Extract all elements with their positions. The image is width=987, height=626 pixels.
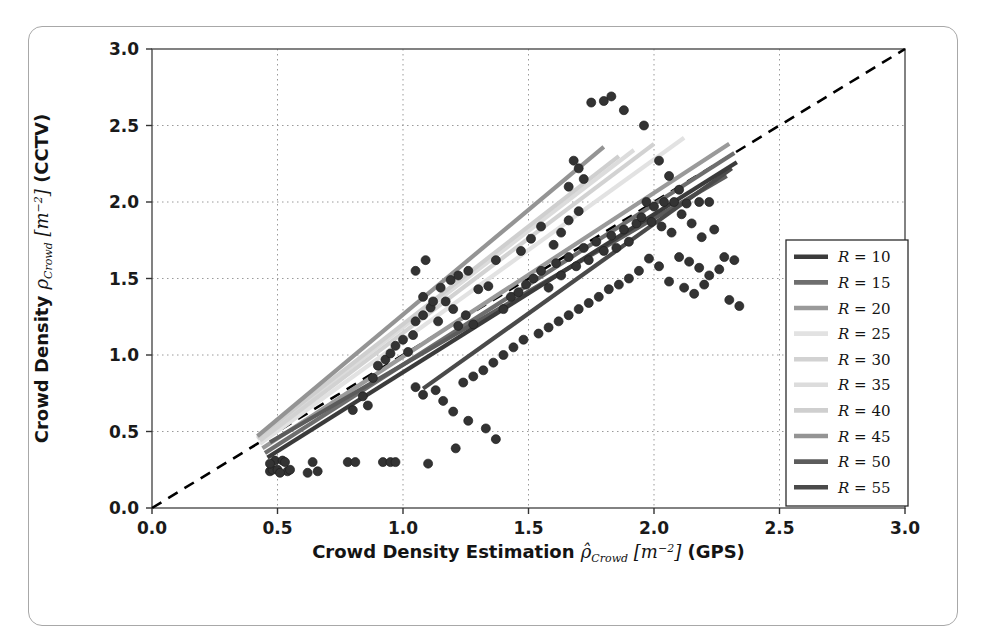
data-point: [549, 240, 558, 249]
data-point: [554, 317, 563, 326]
data-point: [308, 458, 317, 467]
data-point: [276, 468, 285, 477]
x-tick-label: 1.5: [513, 518, 543, 538]
data-point: [509, 343, 518, 352]
data-point: [655, 156, 664, 165]
data-point: [411, 266, 420, 275]
data-point: [527, 234, 536, 243]
data-point: [569, 156, 578, 165]
data-point: [373, 361, 382, 370]
data-point: [484, 282, 493, 291]
data-point: [730, 256, 739, 265]
data-point: [665, 277, 674, 286]
data-point: [521, 280, 530, 289]
data-point: [619, 106, 628, 115]
data-point: [667, 228, 676, 237]
data-point: [449, 407, 458, 416]
data-point: [705, 198, 714, 207]
data-point: [607, 92, 616, 101]
data-point: [695, 263, 704, 272]
data-point: [351, 458, 360, 467]
legend-label: R = 35: [837, 376, 891, 394]
legend-label: R = 10: [837, 248, 891, 266]
data-point: [574, 305, 583, 314]
data-point: [451, 444, 460, 453]
legend[interactable]: R = 10R = 15R = 20R = 25R = 30R = 35R = …: [786, 240, 908, 506]
data-point: [399, 335, 408, 344]
data-point: [479, 366, 488, 375]
regression-line-r-45: [257, 147, 603, 436]
data-point: [604, 285, 613, 294]
regression-line-r-50: [270, 176, 727, 442]
data-point: [286, 465, 295, 474]
data-point: [670, 198, 679, 207]
data-point: [474, 285, 483, 294]
data-point: [682, 199, 691, 208]
data-point: [564, 311, 573, 320]
data-point: [424, 459, 433, 468]
data-point: [725, 295, 734, 304]
x-tick-label: 1.0: [388, 518, 418, 538]
y-tick-label: 1.5: [109, 269, 139, 289]
data-point: [579, 175, 588, 184]
data-point: [557, 228, 566, 237]
data-point: [634, 266, 643, 275]
data-point: [431, 386, 440, 395]
data-point: [592, 237, 601, 246]
y-axis-title: Crowd Density ρCrowd [m−2] (CCTV): [31, 114, 55, 443]
data-point: [386, 349, 395, 358]
x-tick-label: 0.0: [137, 518, 167, 538]
data-point: [690, 289, 699, 298]
data-point: [607, 231, 616, 240]
data-point: [303, 468, 312, 477]
scatter-points: [265, 92, 743, 477]
x-tick-label: 0.5: [262, 518, 292, 538]
data-point: [655, 262, 664, 271]
data-point: [647, 217, 656, 226]
data-point: [411, 317, 420, 326]
data-point: [650, 202, 659, 211]
data-point: [537, 222, 546, 231]
data-point: [391, 341, 400, 350]
data-point: [695, 198, 704, 207]
data-point: [459, 378, 468, 387]
data-point: [619, 225, 628, 234]
data-point: [499, 305, 508, 314]
y-tick-label: 3.0: [109, 39, 139, 59]
legend-label: R = 50: [837, 453, 891, 471]
data-point: [574, 207, 583, 216]
x-axis-title: Crowd Density Estimation ρ̂Crowd [m−2] (…: [312, 541, 745, 565]
data-point: [639, 121, 648, 130]
data-point: [587, 98, 596, 107]
data-point: [660, 198, 669, 207]
y-tick-label: 0.0: [109, 498, 139, 518]
data-point: [454, 271, 463, 280]
data-point: [491, 435, 500, 444]
data-point: [584, 298, 593, 307]
data-point: [491, 256, 500, 265]
regression-line-r-25: [260, 138, 684, 444]
legend-label: R = 45: [837, 428, 891, 446]
data-point: [599, 246, 608, 255]
data-point: [697, 233, 706, 242]
legend-label: R = 40: [837, 402, 891, 420]
legend-label: R = 25: [837, 325, 891, 343]
data-point: [419, 292, 428, 301]
data-point: [675, 253, 684, 262]
x-tick-label: 2.5: [764, 518, 794, 538]
legend-label: R = 30: [837, 351, 891, 369]
data-point: [564, 253, 573, 262]
data-point: [544, 323, 553, 332]
data-point: [464, 266, 473, 275]
x-tick-label: 3.0: [890, 518, 920, 538]
y-tick-label: 2.5: [109, 116, 139, 136]
legend-label: R = 55: [837, 479, 891, 497]
data-point: [439, 396, 448, 405]
data-point: [421, 256, 430, 265]
data-point: [281, 458, 290, 467]
regression-lines: [257, 138, 736, 458]
data-point: [715, 265, 724, 274]
data-point: [481, 424, 490, 433]
data-point: [516, 246, 525, 255]
data-point: [534, 329, 543, 338]
